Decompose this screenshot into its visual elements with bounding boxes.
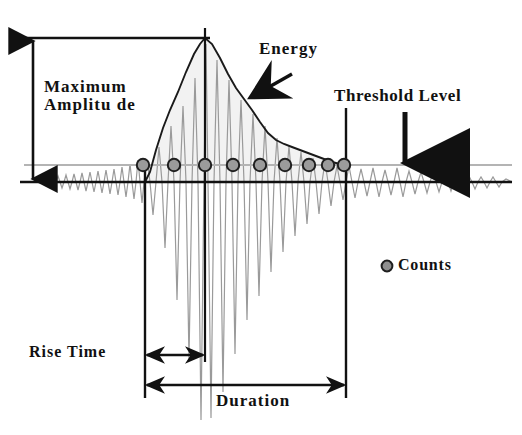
energy-label: Energy bbox=[259, 40, 318, 58]
count-marker bbox=[254, 159, 266, 171]
threshold-level-label: Threshold Level bbox=[334, 87, 461, 105]
counts-legend-marker-icon bbox=[382, 261, 393, 272]
diagram-canvas bbox=[0, 0, 522, 435]
ae-signal-diagram: Maximum Amplitu de Energy Threshold Leve… bbox=[0, 0, 522, 435]
maximum-amplitude-label: Maximum Amplitu de bbox=[44, 78, 136, 114]
count-marker bbox=[338, 159, 350, 171]
count-marker bbox=[279, 159, 291, 171]
count-marker bbox=[168, 159, 180, 171]
maximum-amplitude-label-line2: Amplitu de bbox=[44, 96, 136, 114]
count-marker bbox=[227, 159, 239, 171]
rise-time-label: Rise Time bbox=[29, 344, 106, 361]
count-marker bbox=[322, 159, 334, 171]
count-marker bbox=[303, 159, 315, 171]
count-marker bbox=[137, 159, 149, 171]
duration-label: Duration bbox=[216, 392, 290, 410]
energy-pointer-arrow bbox=[253, 74, 292, 96]
maximum-amplitude-label-line1: Maximum bbox=[44, 78, 136, 96]
count-marker bbox=[199, 159, 211, 171]
counts-legend-label: Counts bbox=[398, 257, 452, 274]
